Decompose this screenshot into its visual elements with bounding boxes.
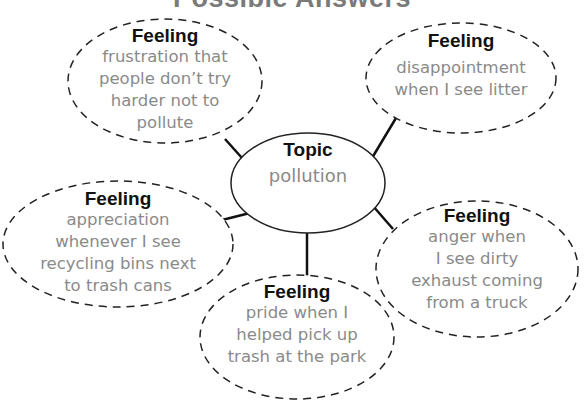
feeling-text-line: recycling bins next <box>18 253 218 275</box>
feeling-node-bottom: Feeling pride when I helped pick up tras… <box>207 281 387 368</box>
connector-left <box>222 213 250 220</box>
feeling-heading: Feeling <box>18 188 218 209</box>
feeling-text-line: from a truck <box>382 292 572 314</box>
feeling-text-line: I see dirty <box>382 248 572 270</box>
feeling-heading: Feeling <box>382 205 572 226</box>
feeling-text-line: to trash cans <box>18 275 218 297</box>
feeling-text-line: pollute <box>75 112 255 134</box>
feeling-text-line: trash at the park <box>207 346 387 368</box>
feeling-text-line: when I see litter <box>371 79 551 101</box>
feeling-node-top-right: Feeling disappointment when I see litter <box>371 30 551 101</box>
feeling-text-line: frustration that <box>75 46 255 68</box>
feeling-heading: Feeling <box>75 25 255 46</box>
feeling-text-line: harder not to <box>75 90 255 112</box>
feeling-heading: Feeling <box>371 30 551 51</box>
feeling-heading: Feeling <box>207 281 387 302</box>
feeling-text-line: whenever I see <box>18 231 218 253</box>
feeling-node-right: Feeling anger when I see dirty exhaust c… <box>382 205 572 314</box>
feeling-text-line: people don’t try <box>75 68 255 90</box>
feeling-text-line: exhaust coming <box>382 270 572 292</box>
topic-node: Topic pollution <box>231 139 385 190</box>
feeling-text-line: helped pick up <box>207 324 387 346</box>
topic-heading: Topic <box>231 139 385 160</box>
feeling-text-line: anger when <box>382 226 572 248</box>
feeling-text-line: pride when I <box>207 302 387 324</box>
topic-text: pollution <box>231 162 385 190</box>
feeling-text-line: appreciation <box>18 209 218 231</box>
feeling-node-top-left: Feeling frustration that people don’t tr… <box>75 25 255 134</box>
feeling-text-line: disappointment <box>371 57 551 79</box>
feeling-node-left: Feeling appreciation whenever I see recy… <box>18 188 218 297</box>
